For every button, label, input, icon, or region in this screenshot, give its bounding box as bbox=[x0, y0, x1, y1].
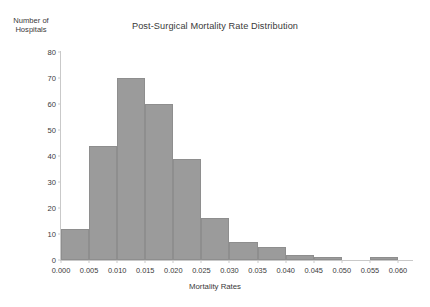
x-axis-tick-mark bbox=[89, 260, 90, 263]
x-axis-tick-label: 0.035 bbox=[248, 266, 267, 275]
x-axis-tick-label: 0.030 bbox=[220, 266, 239, 275]
y-axis-tick-label: 0 bbox=[52, 256, 56, 265]
y-axis-tick-mark bbox=[58, 52, 61, 53]
chart-figure: Post-Surgical Mortality Rate Distributio… bbox=[0, 0, 430, 307]
x-axis-tick-mark bbox=[369, 260, 370, 263]
x-axis-tick-mark bbox=[285, 260, 286, 263]
histogram-bar bbox=[286, 255, 314, 260]
y-axis-tick-label: 20 bbox=[48, 204, 56, 213]
y-axis-label: Number of Hospitals bbox=[2, 16, 60, 35]
x-axis-tick-mark bbox=[201, 260, 202, 263]
histogram-bar bbox=[258, 247, 286, 260]
histogram-bar bbox=[61, 229, 89, 260]
y-axis-tick-label: 40 bbox=[48, 152, 56, 161]
histogram-bar bbox=[201, 218, 229, 260]
histogram-bar bbox=[229, 242, 257, 260]
y-axis-tick-label: 50 bbox=[48, 126, 56, 135]
x-axis-tick-label: 0.000 bbox=[52, 266, 71, 275]
histogram-bar bbox=[145, 104, 173, 260]
x-axis-tick-label: 0.005 bbox=[80, 266, 99, 275]
histogram-bar bbox=[89, 146, 117, 260]
x-axis-tick-label: 0.045 bbox=[304, 266, 323, 275]
x-axis-tick-mark bbox=[229, 260, 230, 263]
y-axis-tick-mark bbox=[58, 208, 61, 209]
plot-area: 010203040506070800.0000.0050.0100.0150.0… bbox=[61, 52, 412, 260]
y-axis-tick-label: 80 bbox=[48, 48, 56, 57]
x-axis-line bbox=[60, 260, 413, 261]
x-axis-tick-mark bbox=[397, 260, 398, 263]
x-axis-tick-label: 0.010 bbox=[108, 266, 127, 275]
clipped-header-artifact bbox=[0, 0, 430, 7]
y-axis-tick-label: 70 bbox=[48, 74, 56, 83]
y-axis-label-line1: Number of bbox=[2, 16, 60, 25]
x-axis-tick-mark bbox=[145, 260, 146, 263]
x-axis-tick-label: 0.040 bbox=[276, 266, 295, 275]
x-axis-tick-mark bbox=[61, 260, 62, 263]
x-axis-tick-mark bbox=[117, 260, 118, 263]
x-axis-tick-label: 0.015 bbox=[136, 266, 155, 275]
x-axis-tick-label: 0.055 bbox=[361, 266, 380, 275]
y-axis-label-line2: Hospitals bbox=[2, 25, 60, 34]
x-axis-tick-mark bbox=[173, 260, 174, 263]
y-axis-tick-mark bbox=[58, 130, 61, 131]
x-axis-tick-label: 0.025 bbox=[192, 266, 211, 275]
y-axis-tick-label: 30 bbox=[48, 178, 56, 187]
y-axis-tick-mark bbox=[58, 182, 61, 183]
histogram-bar bbox=[117, 78, 145, 260]
histogram-bar bbox=[173, 159, 201, 260]
y-axis-tick-label: 60 bbox=[48, 100, 56, 109]
y-axis-tick-mark bbox=[58, 156, 61, 157]
y-axis-tick-mark bbox=[58, 104, 61, 105]
y-axis-tick-mark bbox=[58, 78, 61, 79]
x-axis-tick-label: 0.020 bbox=[164, 266, 183, 275]
x-axis-tick-mark bbox=[313, 260, 314, 263]
x-axis-label: Mortality Rates bbox=[0, 282, 430, 291]
x-axis-tick-label: 0.060 bbox=[389, 266, 408, 275]
y-axis-tick-label: 10 bbox=[48, 230, 56, 239]
chart-title: Post-Surgical Mortality Rate Distributio… bbox=[0, 21, 430, 31]
x-axis-tick-mark bbox=[257, 260, 258, 263]
histogram-bar bbox=[314, 257, 342, 260]
histogram-bar bbox=[370, 257, 398, 260]
x-axis-tick-mark bbox=[341, 260, 342, 263]
x-axis-tick-label: 0.050 bbox=[333, 266, 352, 275]
